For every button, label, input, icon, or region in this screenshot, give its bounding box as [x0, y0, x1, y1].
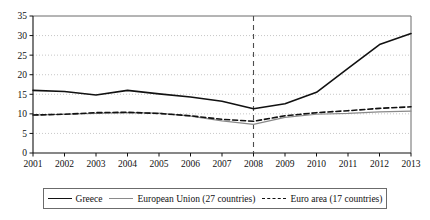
- x-tick-label: 2004: [118, 159, 137, 169]
- y-tick-label: 35: [18, 11, 28, 21]
- x-tick-label: 2001: [24, 159, 43, 169]
- x-tick-label: 2005: [150, 159, 169, 169]
- legend-item-greece[interactable]: Greece: [48, 194, 103, 204]
- y-tick-label: 10: [18, 109, 28, 119]
- x-tick-label: 2010: [307, 159, 326, 169]
- legend-item-european-union[interactable]: European Union (27 countries): [109, 194, 255, 204]
- solid-gray-line-icon: [109, 195, 133, 203]
- x-tick-label: 2008: [244, 159, 263, 169]
- solid-dark-line-icon: [48, 195, 72, 203]
- x-tick-label: 2011: [339, 159, 358, 169]
- legend-label-euro-area: Euro area (17 countries): [290, 194, 382, 204]
- x-tick-label: 2013: [402, 159, 421, 169]
- legend-item-euro-area[interactable]: Euro area (17 countries): [262, 194, 382, 204]
- x-tick-label: 2007: [213, 159, 232, 169]
- y-tick-label: 25: [18, 51, 28, 61]
- x-tick-label: 2003: [87, 159, 106, 169]
- line-chart: 05101520253035 2001200220032004200520062…: [0, 0, 430, 220]
- x-tick-label: 2006: [181, 159, 200, 169]
- x-tick-label: 2009: [276, 159, 295, 169]
- legend-label-greece: Greece: [76, 194, 103, 204]
- y-tick-label: 15: [18, 90, 28, 100]
- x-tick-label: 2012: [370, 159, 389, 169]
- x-tick-label: 2002: [55, 159, 74, 169]
- chart-legend: Greece European Union (27 countries) Eur…: [43, 188, 387, 209]
- y-tick-label: 20: [18, 70, 28, 80]
- y-tick-label: 30: [18, 31, 28, 41]
- y-tick-label: 0: [22, 148, 27, 158]
- legend-label-european-union: European Union (27 countries): [137, 194, 255, 204]
- y-tick-label: 5: [22, 129, 27, 139]
- chart-background: [0, 0, 430, 220]
- dashed-dark-line-icon: [262, 195, 286, 203]
